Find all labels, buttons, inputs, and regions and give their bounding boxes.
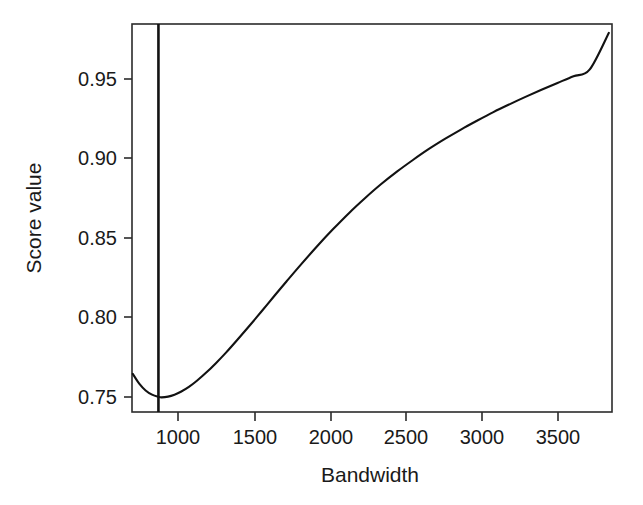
x-axis-tick-labels: 1000 1500 2000 2500 3000 3500	[156, 426, 581, 448]
y-tick-label-2: 0.85	[78, 227, 117, 249]
x-axis-ticks	[178, 412, 558, 421]
x-tick-label-2: 2000	[309, 426, 354, 448]
score-vs-bandwidth-chart: 0.95 0.90 0.85 0.80 0.75 1000 1500 2000 …	[0, 0, 643, 505]
y-tick-label-1: 0.80	[78, 306, 117, 328]
x-axis-title: Bandwidth	[321, 463, 419, 486]
y-tick-label-4: 0.95	[78, 68, 117, 90]
y-tick-label-3: 0.90	[78, 147, 117, 169]
y-axis-ticks	[124, 79, 132, 397]
score-curve	[133, 33, 609, 398]
x-tick-label-0: 1000	[156, 426, 201, 448]
plot-panel-border	[132, 24, 612, 412]
x-tick-label-4: 3000	[460, 426, 505, 448]
x-tick-label-3: 2500	[384, 426, 429, 448]
chart-figure: 0.95 0.90 0.85 0.80 0.75 1000 1500 2000 …	[0, 0, 643, 505]
x-tick-label-1: 1500	[233, 426, 278, 448]
y-tick-label-0: 0.75	[78, 386, 117, 408]
y-axis-title: Score value	[22, 163, 45, 274]
y-axis-tick-labels: 0.95 0.90 0.85 0.80 0.75	[78, 68, 117, 408]
x-tick-label-5: 3500	[536, 426, 581, 448]
